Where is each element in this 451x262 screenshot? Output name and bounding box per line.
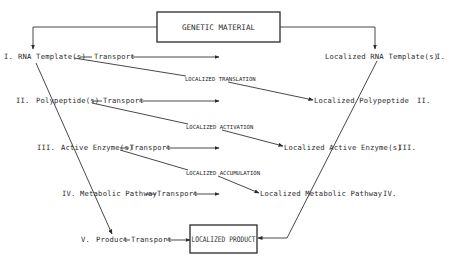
rna-template-label: RNA Template(s) <box>18 52 86 61</box>
connector-to-localized-rna-template <box>280 27 375 49</box>
localized-metabolic-pathway-label: Localized Metabolic Pathway <box>260 189 383 198</box>
localized-active-enzyme-label: Localized Active Enzyme(s) <box>284 143 402 152</box>
level-numeral-left-3: III. <box>37 143 55 152</box>
level-numeral-left-5: V. <box>81 235 90 244</box>
level-numeral-right-2: II. <box>417 96 431 105</box>
genetic-material-box: GENETIC MATERIAL <box>157 12 280 42</box>
level-numeral-left-1: I. <box>4 52 13 61</box>
translation-line-out <box>228 82 313 100</box>
metabolic-pathway-label: Metabolic Pathway <box>80 189 157 198</box>
level-numeral-right-1: I. <box>436 52 445 61</box>
level-numeral-left-2: II. <box>16 96 30 105</box>
activation-line-in <box>92 103 188 124</box>
transport-label-4: Transport <box>157 189 198 198</box>
localized-rna-template-label: Localized RNA Template(s) <box>325 52 438 61</box>
level-numeral-left-4: IV. <box>62 189 76 198</box>
genetic-localization-diagram: GENETIC MATERIAL I. RNA Template(s) Tran… <box>0 0 451 262</box>
accumulation-line-in <box>120 150 188 170</box>
product-label: Product <box>96 235 128 244</box>
localized-product-box: LOCALIZED PRODUCT <box>190 225 257 253</box>
accumulation-line-out <box>218 176 259 193</box>
level-numeral-right-3: III. <box>398 143 416 152</box>
transport-label-3: Transport <box>130 143 171 152</box>
connector-to-rna-template <box>33 27 157 49</box>
level-numeral-right-4: IV. <box>383 189 397 198</box>
localized-polypeptide-label: Localized Polypeptide <box>314 96 409 105</box>
polypeptide-label: Polypeptide(s) <box>36 96 99 105</box>
localized-translation-label: LOCALIZED TRANSLATION <box>185 76 256 82</box>
genetic-material-label: GENETIC MATERIAL <box>182 23 256 32</box>
localized-accumulation-label: LOCALIZED ACCUMULATION <box>186 170 260 176</box>
activation-line-out <box>222 130 283 146</box>
transport-label-5: Transport <box>131 235 172 244</box>
localized-product-label: LOCALIZED PRODUCT <box>192 235 256 244</box>
transport-label-2: Transport <box>103 96 144 105</box>
transport-label-1: Transport <box>94 52 135 61</box>
localized-activation-label: LOCALIZED ACTIVATION <box>186 124 253 130</box>
